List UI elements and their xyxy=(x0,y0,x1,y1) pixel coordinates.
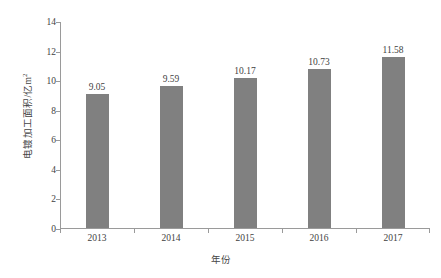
y-axis-line xyxy=(60,22,61,229)
bar-value-label: 9.05 xyxy=(89,82,106,92)
y-axis-tick-mark xyxy=(56,22,60,23)
y-axis-tick-mark xyxy=(56,140,60,141)
bar xyxy=(382,57,405,228)
bar-value-label: 9.59 xyxy=(163,74,180,84)
y-axis-tick-label: 10 xyxy=(47,76,57,86)
x-axis-tick-labels: 20132014201520162017 xyxy=(60,233,430,249)
y-axis-title-superscript: 2 xyxy=(21,73,29,77)
y-axis-tick-mark xyxy=(56,170,60,171)
y-axis-tick-mark xyxy=(56,111,60,112)
y-axis-title-text: 电镀加工面积/亿m xyxy=(23,77,33,159)
bar-value-label: 10.73 xyxy=(308,57,329,67)
bar-value-label: 11.58 xyxy=(382,45,403,55)
y-axis-tick-mark xyxy=(56,81,60,82)
y-axis-tick-labels: 02468101214 xyxy=(34,22,56,229)
y-axis-tick-mark xyxy=(56,52,60,53)
bar xyxy=(86,94,109,228)
y-axis-tick-label: 12 xyxy=(47,47,57,57)
x-axis-line xyxy=(60,228,430,229)
bar-value-label: 10.17 xyxy=(234,66,255,76)
plot-area: 9.059.5910.1710.7311.58 xyxy=(60,22,430,229)
x-axis-tick-label: 2014 xyxy=(162,233,181,243)
bar xyxy=(160,86,183,228)
bar-chart-figure: 电镀加工面积/亿m2 02468101214 9.059.5910.1710.7… xyxy=(0,0,441,278)
x-axis-tick-label: 2017 xyxy=(384,233,403,243)
x-axis-title-text: 年份 xyxy=(211,255,231,265)
x-axis-title: 年份 xyxy=(0,252,441,266)
y-axis-tick-label: 14 xyxy=(47,17,57,27)
bar xyxy=(234,78,257,228)
x-axis-tick-label: 2016 xyxy=(310,233,329,243)
y-axis-tick-mark xyxy=(56,199,60,200)
bar xyxy=(308,69,331,228)
x-axis-tick-label: 2015 xyxy=(236,233,255,243)
x-axis-tick-label: 2013 xyxy=(88,233,107,243)
